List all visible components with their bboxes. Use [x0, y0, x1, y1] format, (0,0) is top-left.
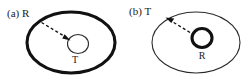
panel-b-inner-circle-thick	[192, 29, 212, 48]
panel-b-tag-and-outer-label: (b) T	[129, 5, 151, 18]
panel-a-arrow-head	[62, 34, 70, 40]
panel-a-inner-label: T	[72, 54, 78, 65]
panel-a-inner-circle-thin	[68, 35, 89, 54]
panel-a: (a) R T	[7, 7, 115, 73]
panel-b: (b) T R	[129, 5, 240, 73]
diagram-svg: (a) R T (b) T R	[0, 0, 247, 82]
panel-a-tag-and-outer-label: (a) R	[7, 7, 30, 20]
panel-a-arrow-shaft	[42, 23, 67, 38]
panel-b-outer-ellipse-thin	[152, 12, 240, 73]
panel-b-arrow-shaft	[171, 21, 191, 33]
figure-canvas: (a) R T (b) T R	[0, 0, 247, 82]
panel-b-inner-label: R	[199, 50, 206, 61]
